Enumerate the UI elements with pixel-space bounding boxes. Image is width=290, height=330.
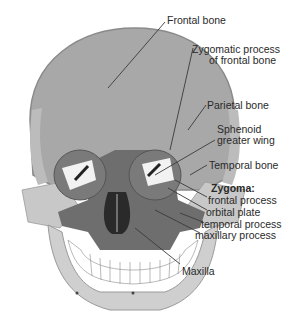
label-zygoma-frontal: frontal process: [208, 194, 277, 206]
label-zygoma-maxillary: maxillary process: [195, 229, 276, 241]
label-sphenoid-2: greater wing: [217, 134, 275, 146]
label-zygoma-heading: Zygoma:: [211, 182, 255, 194]
label-maxilla: Maxilla: [182, 265, 215, 277]
label-zygoma-orbital: orbital plate: [206, 206, 260, 218]
label-parietal-bone: Parietal bone: [207, 99, 269, 111]
label-frontal-bone: Frontal bone: [167, 14, 226, 26]
label-temporal-bone: Temporal bone: [209, 159, 278, 171]
label-zygomatic-process-2: of frontal bone: [209, 54, 276, 66]
skull-diagram: Frontal bone Zygomatic process of fronta…: [0, 0, 290, 330]
